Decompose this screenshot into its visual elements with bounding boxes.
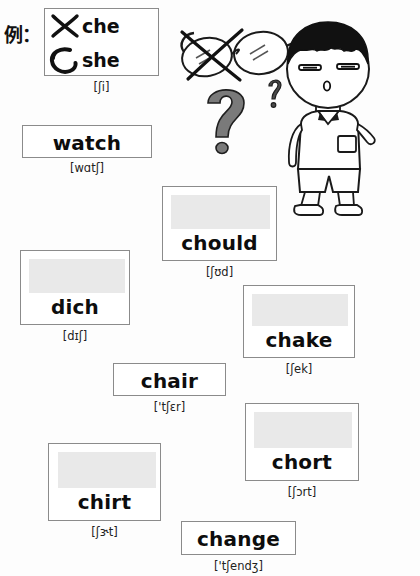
answer-blank-chort[interactable] <box>254 412 352 448</box>
example-phonetic: [ʃi] <box>44 80 159 94</box>
circle-mark-icon <box>48 45 82 75</box>
phonetic-chair: ['tʃɛr] <box>113 400 226 414</box>
phonetic-chirt: [ʃɝt] <box>48 525 161 539</box>
word-card-chair[interactable]: chair <box>113 363 226 396</box>
answer-blank-dich[interactable] <box>29 259 125 293</box>
word-text-chake: chake <box>244 328 354 352</box>
word-text-chirt: chirt <box>49 490 160 514</box>
answer-blank-chake[interactable] <box>252 294 348 326</box>
phonetic-dich: [dɪʃ] <box>20 329 130 343</box>
worksheet-page: 例： che she [ʃi] <box>0 0 420 576</box>
example-word-right: she <box>82 49 120 71</box>
word-text-chair: chair <box>114 369 225 393</box>
cross-mark-icon <box>48 11 82 41</box>
word-card-dich[interactable]: dich <box>20 250 130 325</box>
phonetic-chould: [ʃʊd] <box>162 265 277 279</box>
phonetic-chort: [ʃɔrt] <box>245 485 359 499</box>
word-card-chould[interactable]: chould <box>162 186 277 261</box>
example-row-right: she <box>45 43 158 77</box>
word-card-chort[interactable]: chort <box>245 403 359 481</box>
phonetic-watch: [wɑtʃ] <box>22 161 152 175</box>
word-text-change: change <box>182 527 295 551</box>
example-word-wrong: che <box>82 15 120 37</box>
word-card-chake[interactable]: chake <box>243 285 355 358</box>
word-text-watch: watch <box>23 131 151 155</box>
example-row-wrong: che <box>45 9 158 43</box>
word-text-chort: chort <box>246 450 358 474</box>
word-text-chould: chould <box>163 231 276 255</box>
phonetic-change: ['tʃendʒ] <box>181 559 296 573</box>
illustration <box>168 6 420 216</box>
word-card-chirt[interactable]: chirt <box>48 443 161 521</box>
word-card-change[interactable]: change <box>181 521 296 555</box>
answer-blank-chould[interactable] <box>171 195 270 229</box>
example-box: che she <box>44 8 159 76</box>
phonetic-chake: [ʃek] <box>243 362 355 376</box>
word-text-dich: dich <box>21 295 129 319</box>
word-card-watch[interactable]: watch <box>22 125 152 158</box>
example-label: 例： <box>4 20 40 47</box>
answer-blank-chirt[interactable] <box>58 452 156 488</box>
